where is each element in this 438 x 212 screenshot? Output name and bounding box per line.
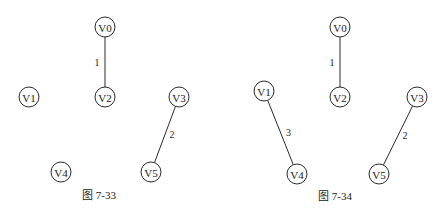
edge-line bbox=[383, 106, 412, 165]
edge-weight-label: 1 bbox=[330, 57, 335, 68]
vertex-v1: V1 bbox=[19, 87, 39, 107]
vertex-label: V1 bbox=[257, 86, 270, 98]
edge-v0-v2: 1 bbox=[95, 37, 106, 87]
figure-caption: 图 7-33 bbox=[82, 189, 116, 201]
vertex-label: V0 bbox=[333, 22, 347, 34]
vertex-label: V2 bbox=[333, 92, 346, 104]
vertex-v5: V5 bbox=[369, 164, 389, 184]
vertex-label: V2 bbox=[98, 92, 111, 104]
vertex-v4: V4 bbox=[51, 162, 71, 182]
vertex-label: V3 bbox=[410, 92, 424, 104]
vertex-v3: V3 bbox=[169, 87, 189, 107]
vertex-v2: V2 bbox=[95, 87, 115, 107]
vertex-v1: V1 bbox=[254, 81, 274, 101]
edge-v3-v5: 2 bbox=[383, 106, 412, 165]
vertex-label: V5 bbox=[372, 169, 386, 181]
vertex-label: V0 bbox=[98, 22, 112, 34]
vertex-v5: V5 bbox=[141, 162, 161, 182]
vertex-v4: V4 bbox=[287, 164, 307, 184]
edge-v0-v2: 1 bbox=[330, 37, 341, 87]
vertex-v0: V0 bbox=[95, 17, 115, 37]
vertex-v2: V2 bbox=[330, 87, 350, 107]
graph-diagram: 12V0V1V2V3V4V5图 7-33 123V0V1V2V3V4V5图 7-… bbox=[0, 0, 438, 212]
vertex-label: V4 bbox=[54, 167, 68, 179]
edge-weight-label: 1 bbox=[95, 57, 100, 68]
figure-7-34: 123V0V1V2V3V4V5图 7-34 bbox=[254, 17, 427, 202]
vertex-label: V3 bbox=[172, 92, 186, 104]
vertex-v0: V0 bbox=[330, 17, 350, 37]
edge-weight-label: 2 bbox=[403, 130, 408, 141]
vertex-label: V5 bbox=[144, 167, 158, 179]
figure-caption: 图 7-34 bbox=[318, 190, 352, 202]
vertex-label: V1 bbox=[22, 92, 35, 104]
edge-v3-v5: 2 bbox=[154, 106, 175, 162]
vertex-v3: V3 bbox=[407, 87, 427, 107]
edge-weight-label: 3 bbox=[286, 127, 291, 138]
edge-weight-label: 2 bbox=[170, 129, 175, 140]
vertex-label: V4 bbox=[290, 169, 304, 181]
edge-v1-v4: 3 bbox=[268, 100, 294, 164]
figure-7-33: 12V0V1V2V3V4V5图 7-33 bbox=[19, 17, 189, 201]
